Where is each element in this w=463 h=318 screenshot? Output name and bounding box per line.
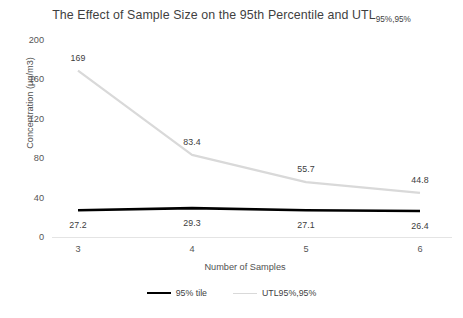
- y-axis-tick-label: 40: [34, 193, 44, 203]
- legend-label: UTL95%,95%: [262, 288, 316, 298]
- series-line: [78, 71, 420, 193]
- y-axis-tick-label: 160: [29, 74, 44, 84]
- data-label: 26.4: [411, 221, 429, 231]
- chart-title-subscript: 95%,95%: [376, 15, 411, 24]
- data-label: 27.2: [69, 220, 87, 230]
- x-axis-title: Number of Samples: [45, 262, 445, 272]
- series-line: [78, 208, 420, 211]
- data-label: 169: [71, 53, 86, 63]
- x-axis-tick-label: 6: [400, 244, 440, 254]
- legend-item[interactable]: 95% tile: [147, 288, 207, 298]
- x-axis-tick-label: 4: [172, 244, 212, 254]
- legend-label: 95% tile: [176, 288, 207, 298]
- y-axis-tick-label: 200: [29, 35, 44, 45]
- chart-title: The Effect of Sample Size on the 95th Pe…: [0, 8, 463, 24]
- chart-legend: 95% tileUTL95%,95%: [0, 288, 463, 298]
- x-axis-tick-label: 3: [58, 244, 98, 254]
- x-axis-tick-labels: 3456: [52, 244, 452, 260]
- data-label: 29.3: [183, 218, 201, 228]
- chart-container: The Effect of Sample Size on the 95th Pe…: [0, 0, 463, 318]
- series-lines: [52, 40, 452, 239]
- data-label: 83.4: [183, 137, 201, 147]
- data-label: 27.1: [297, 220, 315, 230]
- x-axis-tick-label: 5: [286, 244, 326, 254]
- data-label: 55.7: [297, 164, 315, 174]
- legend-swatch: [233, 293, 257, 294]
- chart-title-main: The Effect of Sample Size on the 95th Pe…: [52, 8, 376, 22]
- y-axis-tick-label: 80: [34, 153, 44, 163]
- legend-item[interactable]: UTL95%,95%: [233, 288, 316, 298]
- data-label: 44.8: [411, 175, 429, 185]
- legend-swatch: [147, 292, 171, 294]
- y-axis-tick-label: 120: [29, 114, 44, 124]
- y-axis-tick-labels: 04080120160200: [0, 0, 48, 318]
- y-axis-tick-label: 0: [39, 232, 44, 242]
